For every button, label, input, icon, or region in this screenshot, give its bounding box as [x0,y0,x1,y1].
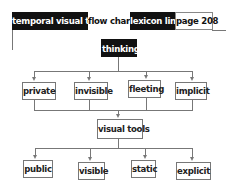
arrow-down-icon [88,157,92,161]
arrow-down-icon [32,77,36,81]
node-explicit: explicit [176,162,211,180]
header-tag-lexicon-link[interactable]: lexicon link [130,12,175,30]
node-thinking: thinking [101,39,137,57]
connector-bottom-branch [35,148,193,149]
connector-converge [34,110,193,111]
connector-from-private [34,100,35,110]
arrow-down-icon [87,77,91,81]
connector-root-stem [118,57,119,71]
arrow-down-icon [190,77,194,81]
node-invisible: invisible [74,82,108,100]
node-visual-tools: visual tools [97,119,143,139]
connector-from-implicit [192,100,193,110]
node-visible: visible [78,162,105,180]
node-public: public [23,160,53,178]
connector-middle-stem [118,139,119,148]
header-left-rule [12,30,13,50]
arrow-down-icon [143,155,147,159]
connector-from-invisible [89,100,90,110]
node-implicit: implicit [175,82,207,100]
arrow-down-icon [33,155,37,159]
header-tag-flow-chart[interactable]: flow chart [88,12,130,30]
node-fleeting: fleeting [128,80,161,98]
header-page-number: page 208 [175,12,213,30]
header-tag-temporal-visual-tool[interactable]: temporal visual tool [12,12,88,30]
connector-top-branch [34,71,193,72]
connector-from-fleeting [146,98,147,110]
header-rule [212,30,226,31]
node-private: private [22,82,56,100]
arrow-down-icon [190,157,194,161]
arrow-down-icon [116,114,120,118]
node-static: static [131,160,156,178]
arrow-down-icon [144,75,148,79]
